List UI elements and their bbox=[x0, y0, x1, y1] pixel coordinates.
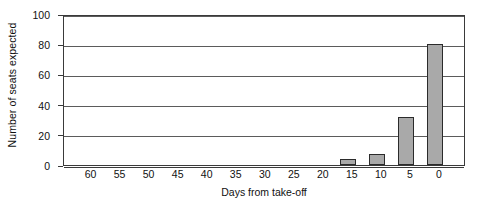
x-axis-title: Days from take-off bbox=[63, 186, 465, 198]
y-tick-mark-60 bbox=[58, 75, 63, 76]
x-tick-label-25: 25 bbox=[288, 168, 300, 182]
y-tick-label-40: 40 bbox=[38, 100, 50, 111]
y-tick-mark-80 bbox=[58, 45, 63, 46]
x-tick-label-50: 50 bbox=[143, 168, 155, 182]
y-axis-tick-labels: 020406080100 bbox=[22, 15, 54, 166]
x-tick-label-45: 45 bbox=[172, 168, 184, 182]
y-axis-title-label: Number of seats expected bbox=[6, 23, 18, 148]
bar-chart-figure: Number of seats expected 020406080100 60… bbox=[0, 0, 477, 207]
x-tick-label-20: 20 bbox=[317, 168, 329, 182]
y-tick-label-60: 60 bbox=[38, 70, 50, 81]
bar-15 bbox=[340, 159, 356, 165]
x-tick-label-10: 10 bbox=[375, 168, 387, 182]
x-tick-label-40: 40 bbox=[201, 168, 213, 182]
x-tick-label-35: 35 bbox=[230, 168, 242, 182]
bar-5 bbox=[398, 117, 414, 165]
y-tick-label-100: 100 bbox=[32, 10, 50, 21]
y-tick-label-0: 0 bbox=[44, 161, 50, 172]
x-tick-label-55: 55 bbox=[114, 168, 126, 182]
x-tick-label-30: 30 bbox=[259, 168, 271, 182]
y-tick-mark-0 bbox=[58, 166, 63, 167]
bar-0 bbox=[427, 44, 443, 165]
plot-area bbox=[63, 15, 465, 166]
x-tick-label-60: 60 bbox=[85, 168, 97, 182]
bars-group bbox=[64, 16, 464, 165]
y-tick-label-80: 80 bbox=[38, 40, 50, 51]
x-tick-label-15: 15 bbox=[346, 168, 358, 182]
x-tick-label-5: 5 bbox=[407, 168, 413, 182]
x-axis-tick-labels: 605550454035302520151050 bbox=[63, 168, 465, 184]
y-tick-mark-20 bbox=[58, 135, 63, 136]
y-tick-mark-100 bbox=[58, 15, 63, 16]
bar-10 bbox=[369, 154, 385, 165]
y-axis-title: Number of seats expected bbox=[0, 0, 24, 170]
x-tick-label-0: 0 bbox=[436, 168, 442, 182]
y-tick-mark-40 bbox=[58, 105, 63, 106]
y-tick-label-20: 20 bbox=[38, 131, 50, 142]
